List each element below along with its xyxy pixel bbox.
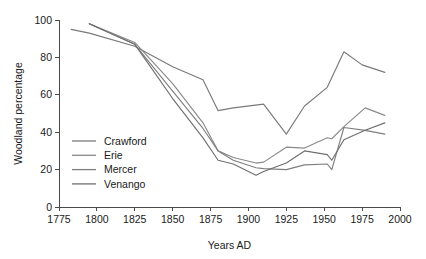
legend-label-mercer: Mercer [104, 163, 137, 175]
chart-plot-area: 0204060801001775180018251850187519001925… [0, 0, 426, 259]
x-tick-label-1825: 1825 [123, 213, 147, 225]
y-tick-label-0: 0 [46, 201, 52, 213]
legend-label-erie: Erie [104, 149, 123, 161]
woodland-percentage-line-chart: 0204060801001775180018251850187519001925… [0, 0, 426, 259]
x-tick-label-1800: 1800 [85, 213, 109, 225]
y-tick-label-100: 100 [34, 14, 52, 26]
x-tick-label-1775: 1775 [47, 213, 71, 225]
x-tick-label-1875: 1875 [199, 213, 223, 225]
x-tick-label-1975: 1975 [350, 213, 374, 225]
chart-axes: 0204060801001775180018251850187519001925… [34, 14, 411, 225]
y-tick-label-20: 20 [40, 163, 52, 175]
y-axis-title: Woodland percentage [12, 62, 24, 165]
x-tick-label-1850: 1850 [161, 213, 185, 225]
chart-legend: CrawfordErieMercerVenango [72, 135, 147, 190]
series-line-venango [89, 24, 385, 175]
legend-label-crawford: Crawford [104, 135, 147, 147]
x-tick-label-1950: 1950 [313, 213, 337, 225]
series-line-crawford [71, 29, 385, 134]
y-tick-label-60: 60 [40, 88, 52, 100]
x-tick-label-1925: 1925 [275, 213, 299, 225]
y-tick-label-40: 40 [40, 126, 52, 138]
legend-label-venango: Venango [104, 178, 146, 190]
x-tick-label-2000: 2000 [388, 213, 412, 225]
x-tick-label-1900: 1900 [237, 213, 261, 225]
x-axis-title: Years AD [208, 239, 252, 251]
y-tick-label-80: 80 [40, 51, 52, 63]
